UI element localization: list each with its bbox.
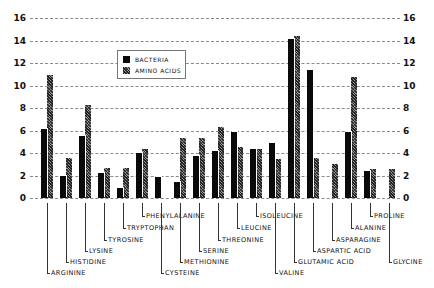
label-leader-line xyxy=(294,203,295,262)
label-leader-hook xyxy=(389,262,392,263)
x-category-label: LEUCINE xyxy=(241,224,272,232)
y-tick-label-right: 10 xyxy=(403,81,425,91)
y-tick-label-right: 16 xyxy=(403,13,425,23)
label-leader-hook xyxy=(275,273,278,274)
label-leader-hook xyxy=(294,262,297,263)
x-category-label: PHENYLALANINE xyxy=(146,212,205,220)
legend-label-amino-acids: AMINO ACIDS xyxy=(135,67,181,74)
y-tick-label-left: 4 xyxy=(4,148,26,158)
bar-amino-acids xyxy=(180,138,186,198)
bar-bacteria xyxy=(174,182,180,198)
label-leader-hook xyxy=(161,273,164,274)
bar-chart: 00224466881010121214141616 ARGININEHISTI… xyxy=(0,0,434,288)
label-leader-hook xyxy=(66,262,69,263)
bar-amino-acids xyxy=(66,158,72,199)
label-leader-line xyxy=(199,203,200,251)
bar-amino-acids xyxy=(237,147,243,198)
y-tick-label-left: 6 xyxy=(4,126,26,136)
bar-bacteria xyxy=(117,188,123,198)
label-leader-line xyxy=(351,203,352,228)
bar-amino-acids xyxy=(275,159,281,198)
label-leader-hook xyxy=(370,216,373,217)
y-tick-label-left: 16 xyxy=(4,13,26,23)
label-leader-hook xyxy=(142,216,145,217)
label-leader-line xyxy=(389,203,390,262)
label-leader-line xyxy=(47,203,48,273)
label-leader-hook xyxy=(237,228,240,229)
label-leader-line xyxy=(161,203,162,273)
bar-amino-acids xyxy=(123,168,129,198)
x-category-label: GLYCINE xyxy=(393,258,423,266)
label-leader-line xyxy=(85,203,86,251)
label-leader-line xyxy=(370,203,371,216)
y-tick-label-right: 14 xyxy=(403,36,425,46)
gridline xyxy=(30,198,400,199)
bar-amino-acids xyxy=(104,168,110,198)
legend-label-bacteria: BACTERIA xyxy=(135,56,169,63)
label-leader-line xyxy=(256,203,257,216)
label-leader-line xyxy=(275,203,276,273)
label-leader-line xyxy=(66,203,67,262)
bar-bacteria xyxy=(364,171,370,198)
bar-amino-acids xyxy=(85,105,91,198)
bar-bacteria xyxy=(60,176,66,199)
legend-swatch-amino-acids xyxy=(123,67,130,74)
x-category-label: VALINE xyxy=(279,269,304,277)
y-tick-label-left: 8 xyxy=(4,103,26,113)
x-category-label: ALANINE xyxy=(355,224,386,232)
x-category-label: TYROSINE xyxy=(108,236,144,244)
x-category-label: ISOLEUCINE xyxy=(260,212,303,220)
bar-amino-acids xyxy=(256,149,262,199)
label-leader-hook xyxy=(351,228,354,229)
bar-bacteria xyxy=(79,136,85,198)
bar-bacteria xyxy=(307,70,313,198)
bar-amino-acids xyxy=(313,158,319,199)
x-category-label: TRYPTOPHAN xyxy=(127,224,174,232)
label-leader-hook xyxy=(313,251,316,252)
label-leader-hook xyxy=(123,228,126,229)
bar-bacteria xyxy=(155,177,161,198)
label-leader-hook xyxy=(47,273,50,274)
label-leader-hook xyxy=(85,251,88,252)
bar-bacteria xyxy=(212,151,218,198)
bar-bacteria xyxy=(41,129,47,198)
x-category-label: ASPARAGINE xyxy=(336,236,381,244)
y-tick-label-right: 12 xyxy=(403,58,425,68)
bar-bacteria xyxy=(250,149,256,199)
gridline xyxy=(30,18,400,19)
y-tick-label-right: 4 xyxy=(403,148,425,158)
bar-bacteria xyxy=(288,39,294,198)
label-leader-hook xyxy=(256,216,259,217)
x-category-label: ASPARTIC ACID xyxy=(317,247,371,255)
x-category-label: GLUTAMIC ACID xyxy=(298,258,354,266)
y-tick-label-left: 10 xyxy=(4,81,26,91)
gridline xyxy=(30,41,400,42)
bar-amino-acids xyxy=(351,77,357,199)
x-category-label: CYSTEINE xyxy=(165,269,200,277)
bar-bacteria xyxy=(269,143,275,198)
y-tick-label-right: 8 xyxy=(403,103,425,113)
legend-swatch-bacteria xyxy=(123,56,130,63)
label-leader-hook xyxy=(180,262,183,263)
x-category-label: HISTIDINE xyxy=(70,258,106,266)
y-tick-label-right: 0 xyxy=(403,193,425,203)
y-tick-label-right: 2 xyxy=(403,171,425,181)
legend: BACTERIA AMINO ACIDS xyxy=(117,50,186,79)
bar-amino-acids xyxy=(199,138,205,198)
y-tick-label-left: 12 xyxy=(4,58,26,68)
label-leader-hook xyxy=(332,240,335,241)
bar-bacteria xyxy=(136,153,142,198)
x-category-label: THREONINE xyxy=(222,236,264,244)
bar-amino-acids xyxy=(370,169,376,198)
y-tick-label-left: 0 xyxy=(4,193,26,203)
bar-bacteria xyxy=(231,132,237,198)
label-leader-line xyxy=(313,203,314,251)
x-category-label: METHIONINE xyxy=(184,258,229,266)
label-leader-line xyxy=(123,203,124,228)
label-leader-line xyxy=(237,203,238,228)
label-leader-line xyxy=(142,203,143,216)
y-tick-label-left: 2 xyxy=(4,171,26,181)
label-leader-hook xyxy=(218,240,221,241)
bar-bacteria xyxy=(98,173,104,198)
x-category-label: SERINE xyxy=(203,247,229,255)
